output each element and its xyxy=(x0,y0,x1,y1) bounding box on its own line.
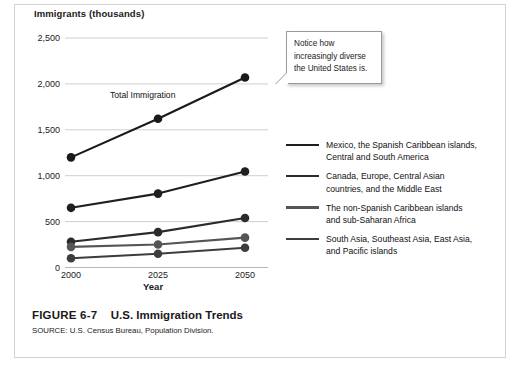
data-point-marker xyxy=(154,240,163,249)
figure-caption: FIGURE 6-7 U.S. Immigration Trends SOURC… xyxy=(32,305,462,335)
x-axis-tick-label: 2050 xyxy=(235,270,255,280)
legend-label: The non-Spanish Caribbean islandsand sub… xyxy=(326,202,463,226)
legend-item: Mexico, the Spanish Caribbean islands,Ce… xyxy=(286,139,501,163)
callout-line-2: increasingly diverse xyxy=(294,51,374,64)
y-axis-tick-label: 2,000 xyxy=(37,79,60,89)
legend-item: South Asia, Southeast Asia, East Asia,an… xyxy=(286,233,501,257)
y-axis-tick-label: 0 xyxy=(55,263,60,273)
x-axis-title: Year xyxy=(143,281,163,292)
legend-label-line-1: Mexico, the Spanish Caribbean islands, xyxy=(326,140,477,150)
legend-swatch xyxy=(286,238,319,240)
data-point-marker xyxy=(241,214,250,223)
legend-label-line-1: South Asia, Southeast Asia, East Asia, xyxy=(326,234,472,244)
callout-line-1: Notice how xyxy=(294,38,374,51)
callout-box: Notice how increasingly diverse the Unit… xyxy=(286,31,382,84)
y-axis-tick-label: 1,000 xyxy=(37,171,60,181)
data-point-marker xyxy=(67,153,76,162)
legend-label-line-2: and Pacific islands xyxy=(326,246,397,256)
legend-item: Canada, Europe, Central Asiancountries, … xyxy=(286,170,501,194)
legend-label-line-2: and sub-Saharan Africa xyxy=(326,215,416,225)
figure-title: U.S. Immigration Trends xyxy=(111,309,243,321)
y-axis-tick-label: 500 xyxy=(45,217,60,227)
data-point-marker xyxy=(241,243,250,252)
legend-swatch xyxy=(286,144,319,146)
legend-label-line-2: countries, and the Middle East xyxy=(326,184,442,194)
legend-label: Canada, Europe, Central Asiancountries, … xyxy=(326,170,444,194)
data-point-marker xyxy=(154,228,163,237)
data-point-marker xyxy=(154,114,163,123)
callout-line-3: the United States is. xyxy=(294,63,374,76)
data-point-marker xyxy=(241,167,250,176)
data-point-marker xyxy=(241,233,250,242)
figure-number: FIGURE 6-7 xyxy=(32,309,97,321)
legend-label-line-1: The non-Spanish Caribbean islands xyxy=(326,203,463,213)
total-immigration-label: Total Immigration xyxy=(110,90,175,100)
y-axis-tick-label: 2,500 xyxy=(37,33,60,43)
legend-item: The non-Spanish Caribbean islandsand sub… xyxy=(286,202,501,226)
chart-legend: Mexico, the Spanish Caribbean islands,Ce… xyxy=(286,139,501,265)
data-point-marker xyxy=(67,254,76,263)
x-axis-tick-label: 2025 xyxy=(148,270,168,280)
legend-swatch xyxy=(286,206,319,208)
legend-label-line-2: Central and South America xyxy=(326,152,429,162)
legend-swatch xyxy=(286,175,319,177)
data-point-marker xyxy=(154,249,163,258)
x-axis-tick-label: 2000 xyxy=(61,270,81,280)
data-point-marker xyxy=(241,73,250,82)
legend-label: South Asia, Southeast Asia, East Asia,an… xyxy=(326,233,472,257)
y-axis-tick-label: 1,500 xyxy=(37,125,60,135)
legend-label-line-1: Canada, Europe, Central Asian xyxy=(326,171,444,181)
figure-source: SOURCE: U.S. Census Bureau, Population D… xyxy=(32,326,462,335)
data-point-marker xyxy=(67,204,76,213)
data-point-marker xyxy=(154,189,163,198)
legend-label: Mexico, the Spanish Caribbean islands,Ce… xyxy=(326,139,477,163)
data-point-marker xyxy=(67,243,76,252)
